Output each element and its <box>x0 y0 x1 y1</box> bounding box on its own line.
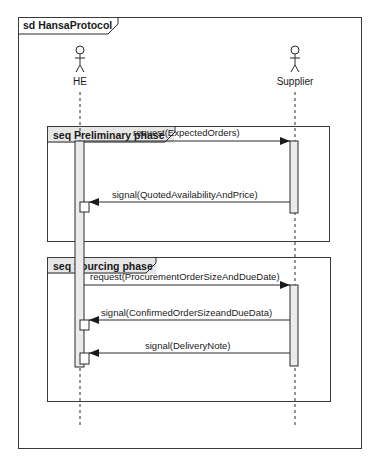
activation-he-main <box>75 141 84 367</box>
actor-he-icon <box>75 46 85 72</box>
message-label-signal-confirmed: signal(ConfirmedOrderSizeandDueData) <box>101 307 272 318</box>
actor-supplier-icon <box>290 46 300 72</box>
activation-he-signal-2 <box>80 320 89 330</box>
diagram-canvas <box>0 0 377 462</box>
activation-supplier-2 <box>290 285 298 366</box>
message-label-request-expected-orders: request(ExpectedOrders) <box>133 127 240 138</box>
message-label-signal-quoted: signal(QuotedAvailabilityAndPrice) <box>112 189 258 200</box>
actor-he-name: HE <box>60 76 100 87</box>
sd-label-notch <box>18 17 118 34</box>
message-label-signal-delivery: signal(DeliveryNote) <box>145 340 231 351</box>
actor-supplier-name: Supplier <box>265 76 325 87</box>
message-label-request-procurement: request(ProcurementOrderSizeAndDueDate) <box>90 271 280 282</box>
activation-he-signal-1 <box>80 202 89 212</box>
activation-supplier-1 <box>290 141 298 213</box>
activation-he-signal-3 <box>80 353 89 364</box>
